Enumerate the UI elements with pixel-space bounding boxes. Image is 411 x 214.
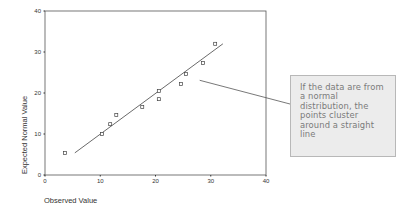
x-tick-label: 10 <box>97 178 104 184</box>
annotation-callout: If the data are from a normal distributi… <box>290 75 396 157</box>
x-axis-title: Observed Value <box>44 196 97 205</box>
y-tick-label: 10 <box>34 131 41 137</box>
y-tick-label: 30 <box>34 49 41 55</box>
x-tick-label: 40 <box>263 178 270 184</box>
reference-line <box>75 44 223 153</box>
y-tick-label: 0 <box>38 172 42 178</box>
x-tick-label: 20 <box>152 178 159 184</box>
y-axis-title: Expected Normal Value <box>20 96 29 174</box>
data-point <box>184 73 187 76</box>
y-tick-label: 40 <box>34 8 41 14</box>
data-point <box>157 98 160 101</box>
data-point <box>100 133 103 136</box>
data-point <box>179 82 182 85</box>
callout-pointer-line <box>200 80 290 104</box>
y-tick-label: 20 <box>34 90 41 96</box>
x-tick-label: 30 <box>207 178 214 184</box>
data-point <box>115 114 118 117</box>
data-point <box>109 123 112 126</box>
data-point <box>214 42 217 45</box>
data-point <box>157 89 160 92</box>
data-point <box>202 62 205 65</box>
data-point <box>63 151 66 154</box>
x-tick-label: 0 <box>43 178 47 184</box>
data-point <box>141 105 144 108</box>
